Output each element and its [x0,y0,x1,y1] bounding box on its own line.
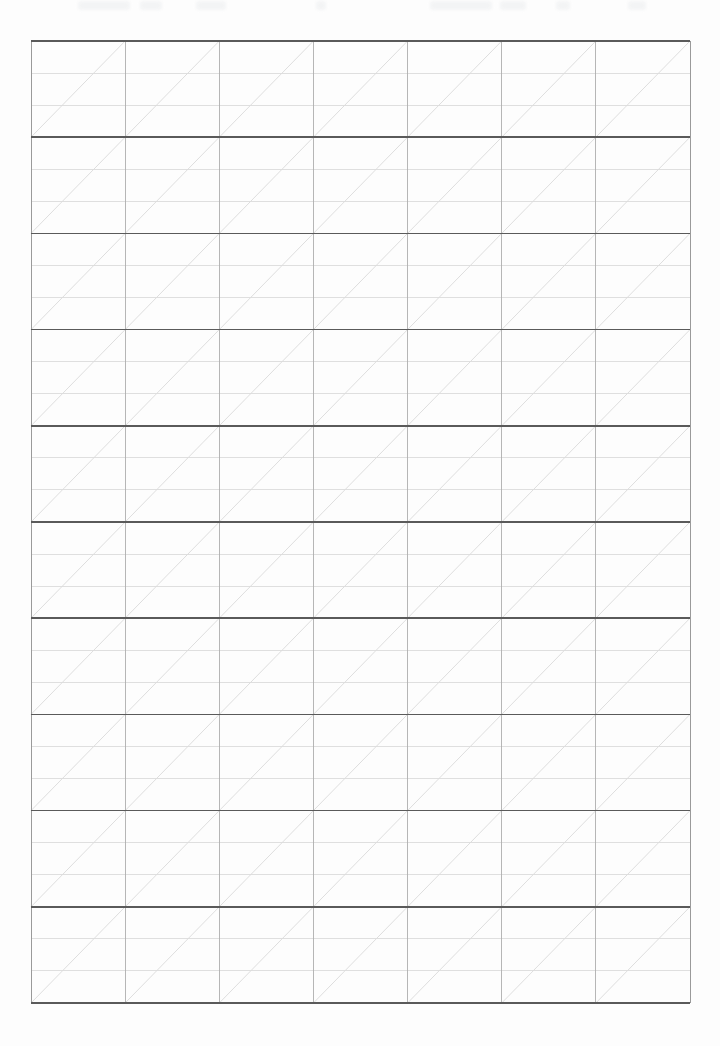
diagonal-guide [125,618,219,714]
diagonal-guide [125,426,219,522]
diagonal-guide [31,41,125,137]
diagonal-guide [408,907,502,1003]
diagonal-guide [31,907,125,1003]
diagonal-guide [219,618,313,714]
diagonal-guide [219,41,313,137]
ghost-smudge [78,1,130,10]
ghost-smudge [140,1,162,10]
diagonal-guide [502,618,596,714]
diagonal-guide [313,618,407,714]
diagonal-guide [408,811,502,907]
diagonal-guide [596,41,690,137]
diagonal-guide [125,522,219,618]
diagonal-guide [31,714,125,810]
diagonal-guide [502,522,596,618]
ghost-smudge [556,1,570,10]
practice-grid [30,40,689,1002]
diagonal-guide [125,41,219,137]
diagonal-guide [219,522,313,618]
diagonal-guide [219,137,313,233]
diagonal-guide [408,233,502,329]
diagonal-guide [408,41,502,137]
ghost-smudge [628,1,646,10]
practice-grid-page [0,0,720,1046]
diagonal-guide [502,41,596,137]
diagonal-guide [596,522,690,618]
diagonal-guide [125,907,219,1003]
diagonal-guide [596,426,690,522]
diagonal-guide [502,233,596,329]
diagonal-guide [408,330,502,426]
diagonal-guide [31,522,125,618]
diagonal-guide [313,137,407,233]
diagonal-guide [313,41,407,137]
diagonal-guide [596,618,690,714]
scanner-ghosting-band [0,0,720,14]
diagonal-guide [502,426,596,522]
diagonal-guide [502,811,596,907]
diagonal-guide [125,811,219,907]
diagonal-guide [313,426,407,522]
diagonal-guide [502,137,596,233]
diagonal-guide [408,522,502,618]
diagonal-guide [125,330,219,426]
ghost-smudge [430,1,492,10]
ghost-smudge [196,1,226,10]
diagonal-guide [408,618,502,714]
diagonal-guide [313,330,407,426]
diagonal-guide [408,137,502,233]
diagonal-guide [502,714,596,810]
diagonal-guide [219,330,313,426]
diagonal-guide [219,714,313,810]
diagonal-guide [125,714,219,810]
diagonal-guide [408,426,502,522]
diagonal-guide [596,330,690,426]
diagonal-guide [31,618,125,714]
diagonal-guide [313,714,407,810]
diagonal-guide [313,233,407,329]
ghost-smudge [500,1,526,10]
diagonal-guide [125,233,219,329]
diagonal-guide [596,811,690,907]
diagonal-guide [31,426,125,522]
diagonal-guide [31,137,125,233]
diagonal-guide [313,811,407,907]
practice-grid-svg [30,40,691,1004]
diagonal-guide [313,907,407,1003]
diagonal-guide [313,522,407,618]
diagonal-guide [31,330,125,426]
diagonal-guide [219,907,313,1003]
diagonal-guide [596,137,690,233]
diagonal-guide [31,811,125,907]
diagonal-guide [596,714,690,810]
diagonal-guide [596,907,690,1003]
diagonal-guide [125,137,219,233]
diagonal-guide [596,233,690,329]
diagonal-guide [219,233,313,329]
diagonal-guide [502,330,596,426]
diagonal-guide [219,811,313,907]
ghost-smudge [316,1,326,10]
diagonal-guide [31,233,125,329]
diagonal-guide [219,426,313,522]
diagonal-guide [502,907,596,1003]
diagonal-guide [408,714,502,810]
